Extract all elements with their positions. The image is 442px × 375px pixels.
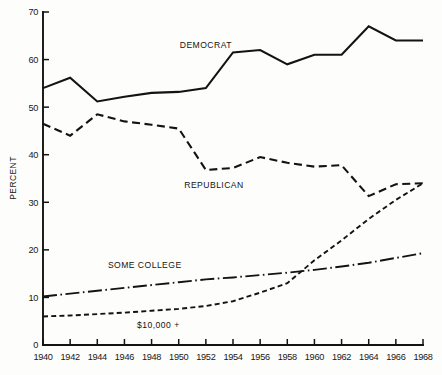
series-line-10-000 [43, 183, 423, 316]
x-tick-label: 1944 [88, 352, 107, 362]
chart-container: 010203040506070 194019421944194619481950… [0, 0, 442, 375]
series-lines [43, 26, 423, 316]
y-axis-ticks: 010203040506070 [28, 7, 49, 350]
x-tick-label: 1940 [33, 352, 52, 362]
series-line-some-college [43, 253, 423, 296]
series-label-10-000: $10,000 + [137, 320, 180, 330]
x-tick-label: 1968 [413, 352, 432, 362]
x-tick-label: 1954 [223, 352, 242, 362]
series-line-democrat [43, 26, 423, 101]
y-tick-label: 0 [33, 340, 38, 350]
x-tick-label: 1956 [251, 352, 270, 362]
y-tick-label: 20 [28, 245, 38, 255]
x-tick-label: 1964 [359, 352, 378, 362]
x-tick-label: 1966 [386, 352, 405, 362]
y-tick-label: 40 [28, 150, 38, 160]
x-tick-label: 1958 [278, 352, 297, 362]
x-tick-label: 1948 [142, 352, 161, 362]
series-label-democrat: DEMOCRAT [180, 40, 232, 50]
y-tick-label: 10 [28, 293, 38, 303]
y-tick-label: 60 [28, 55, 38, 65]
y-tick-label: 30 [28, 198, 38, 208]
x-axis-ticks: 1940194219441946194819501952195419561958… [33, 339, 432, 362]
y-tick-label: 50 [28, 103, 38, 113]
series-label-republican: REPUBLICAN [184, 180, 243, 190]
x-tick-label: 1952 [196, 352, 215, 362]
x-tick-label: 1962 [332, 352, 351, 362]
x-tick-label: 1960 [305, 352, 324, 362]
series-label-some-college: SOME COLLEGE [108, 260, 182, 270]
x-tick-label: 1946 [115, 352, 134, 362]
y-tick-label: 70 [28, 7, 38, 17]
x-tick-label: 1942 [61, 352, 80, 362]
x-tick-label: 1950 [169, 352, 188, 362]
series-annotations: DEMOCRATREPUBLICANSOME COLLEGE$10,000 + [108, 40, 244, 330]
line-chart: 010203040506070 194019421944194619481950… [0, 0, 442, 375]
y-axis-title: PERCENT [8, 156, 18, 200]
